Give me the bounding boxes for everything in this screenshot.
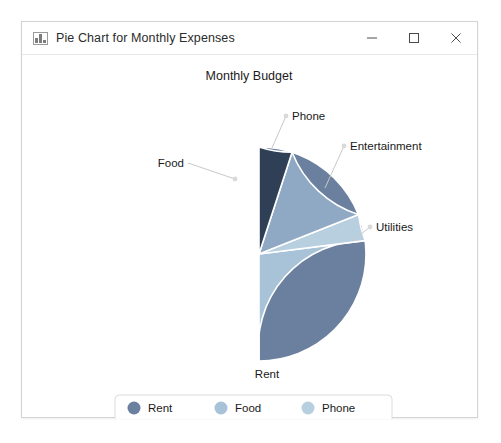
chart-title: Monthly Budget [206, 69, 293, 83]
legend-marker-rent [128, 402, 141, 415]
close-icon [450, 32, 462, 44]
legend-marker-food [215, 402, 228, 415]
slice-label-rent: Rent [255, 368, 280, 380]
application-window: Pie Chart for Monthly Expenses [21, 21, 478, 418]
pie-slices [258, 147, 366, 361]
maximize-icon [408, 32, 420, 44]
title-bar[interactable]: Pie Chart for Monthly Expenses [22, 22, 477, 55]
leader-line-phone [272, 116, 286, 148]
leader-line-food [188, 163, 235, 179]
legend-label-food: Food [235, 402, 261, 414]
maximize-button[interactable] [393, 22, 435, 54]
legend-marker-phone [302, 402, 315, 415]
legend-item-food[interactable]: Food [215, 402, 262, 415]
minimize-button[interactable] [351, 22, 393, 54]
leader-dot-entertainment [342, 144, 347, 149]
legend-label-rent: Rent [148, 402, 173, 414]
window-controls [351, 22, 477, 54]
slice-label-food: Food [158, 157, 184, 169]
slice-label-utilities: Utilities [376, 221, 413, 233]
legend-item-rent[interactable]: Rent [128, 402, 174, 415]
leader-dot-food [233, 177, 238, 182]
legend-label-phone: Phone [322, 402, 355, 414]
leader-dot-utilities [368, 225, 373, 230]
chart-app-icon [33, 32, 48, 45]
slice-label-entertainment: Entertainment [350, 140, 422, 152]
window-title: Pie Chart for Monthly Expenses [56, 31, 235, 45]
minimize-icon [366, 32, 378, 44]
chart-canvas: Monthly Budget Food Phone Entertainment … [22, 55, 477, 417]
legend-item-phone[interactable]: Phone [302, 402, 356, 415]
leader-dot-phone [284, 114, 289, 119]
pie-chart: Monthly Budget Food Phone Entertainment … [22, 55, 477, 419]
slice-label-phone: Phone [292, 110, 325, 122]
legend: Rent Food Phone Entertainment Utilities [115, 395, 392, 419]
close-button[interactable] [435, 22, 477, 54]
